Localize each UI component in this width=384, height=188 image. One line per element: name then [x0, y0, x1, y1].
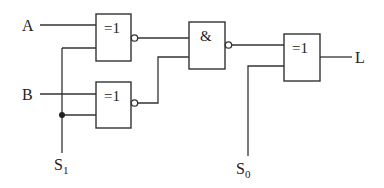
junction-dot: [59, 112, 65, 118]
gate-symbol-output: =1: [292, 40, 308, 56]
wire-s0: [248, 66, 284, 156]
inversion-bubble-bottom: [131, 100, 137, 106]
inversion-bubble-nand: [225, 42, 231, 48]
input-label-s0: S0: [236, 160, 251, 180]
input-label-b: B: [22, 86, 33, 103]
gate-symbol-top: =1: [104, 20, 120, 36]
input-label-s1: S1: [54, 156, 68, 176]
input-label-a: A: [22, 17, 34, 34]
logic-circuit-diagram: A B S1 =1 =1 & S0 =1 L: [0, 0, 384, 188]
inversion-bubble-top: [131, 35, 137, 41]
wire-bottom-to-nand: [138, 57, 189, 103]
gate-symbol-bottom: =1: [104, 88, 120, 104]
gate-symbol-nand: &: [200, 28, 212, 44]
output-label-l: L: [355, 49, 365, 66]
